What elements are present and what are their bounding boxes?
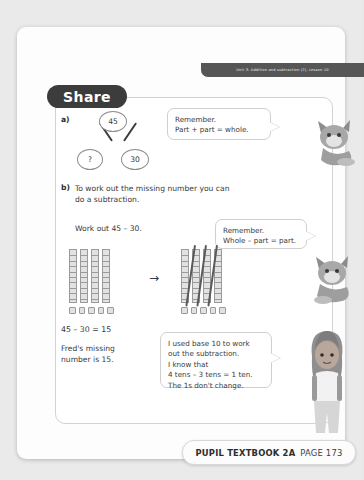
book-label: PUPIL TEXTBOOK 2A bbox=[196, 448, 296, 458]
part-b-block: b) To work out the missing number you ca… bbox=[61, 183, 246, 205]
part-whole-whole: 45 bbox=[99, 111, 127, 132]
ones-row-right bbox=[181, 307, 226, 314]
unit-lesson-text: Unit 3: Addition and subtraction (2), Le… bbox=[236, 68, 328, 72]
bubble-tail-icon bbox=[270, 353, 280, 363]
page-label: PAGE 173 bbox=[300, 448, 342, 458]
equation-result: 45 – 30 = 15 bbox=[61, 325, 111, 334]
bubble-tail-icon bbox=[305, 231, 315, 241]
bubble3-line5: The 1s don't change. bbox=[168, 381, 264, 391]
part-whole-model: 45 ? 30 bbox=[77, 111, 161, 173]
one-cube bbox=[69, 307, 76, 314]
cat-character-illustration-2 bbox=[311, 253, 357, 309]
speech-bubble-remember-part: Remember. Part + part = whole. bbox=[167, 108, 271, 140]
bubble3-line4: 4 tens – 3 tens = 1 ten. bbox=[168, 370, 264, 380]
bubble1-line1: Remember. bbox=[175, 115, 263, 125]
girl-character-illustration bbox=[303, 327, 353, 443]
girl-icon bbox=[303, 327, 353, 439]
one-cube bbox=[98, 307, 105, 314]
bubble1-line2: Part + part = whole. bbox=[175, 125, 263, 135]
bubble2-line2: Whole – part = part. bbox=[223, 236, 299, 246]
part-b-text-line2: do a subtraction. bbox=[75, 194, 230, 205]
cat-character-illustration-1 bbox=[313, 117, 359, 171]
ten-rod bbox=[91, 249, 99, 303]
one-cube bbox=[200, 307, 207, 314]
part-b-label: b) bbox=[61, 183, 70, 205]
answer-sentence: Fred's missing number is 15. bbox=[61, 343, 146, 365]
cat-icon-2 bbox=[311, 253, 357, 305]
speech-bubble-base-ten-explanation: I used base 10 to work out the subtracti… bbox=[160, 332, 272, 388]
ten-rod bbox=[102, 249, 110, 303]
one-cube bbox=[191, 307, 198, 314]
one-cube bbox=[88, 307, 95, 314]
bubble3-line1: I used base 10 to work bbox=[168, 339, 264, 349]
footer-banner: PUPIL TEXTBOOK 2A PAGE 173 bbox=[182, 440, 356, 465]
one-cube bbox=[181, 307, 188, 314]
arrow-icon: → bbox=[149, 273, 175, 283]
cat-icon-1 bbox=[313, 117, 359, 167]
speech-bubble-remember-whole: Remember. Whole – part = part. bbox=[215, 219, 307, 249]
answer-line2: number is 15. bbox=[61, 354, 146, 365]
share-section-pill: Share bbox=[47, 85, 127, 108]
part-b-text: To work out the missing number you can d… bbox=[75, 183, 230, 205]
work-out-instruction: Work out 45 – 30. bbox=[75, 223, 142, 234]
part-whole-part-right: 30 bbox=[121, 149, 149, 170]
ones-row-left bbox=[69, 307, 114, 314]
part-b-row: b) To work out the missing number you ca… bbox=[61, 183, 246, 205]
base-ten-diagram: → bbox=[69, 249, 249, 309]
ten-rod bbox=[69, 249, 77, 303]
one-cube bbox=[210, 307, 217, 314]
part-a-label: a) bbox=[61, 115, 70, 124]
bubble-tail-icon bbox=[269, 122, 279, 132]
answer-line1: Fred's missing bbox=[61, 343, 146, 354]
unit-lesson-banner: Unit 3: Addition and subtraction (2), Le… bbox=[201, 63, 364, 77]
textbook-page: Unit 3: Addition and subtraction (2), Le… bbox=[17, 27, 345, 459]
one-cube bbox=[79, 307, 86, 314]
share-label: Share bbox=[63, 89, 111, 105]
part-whole-part-left: ? bbox=[77, 149, 103, 170]
ten-rod bbox=[80, 249, 88, 303]
bubble3-line2: out the subtraction. bbox=[168, 349, 264, 359]
one-cube bbox=[219, 307, 226, 314]
part-b-text-line1: To work out the missing number you can bbox=[75, 183, 230, 194]
bubble2-line1: Remember. bbox=[223, 226, 299, 236]
one-cube bbox=[107, 307, 114, 314]
bubble3-line3: I know that bbox=[168, 360, 264, 370]
